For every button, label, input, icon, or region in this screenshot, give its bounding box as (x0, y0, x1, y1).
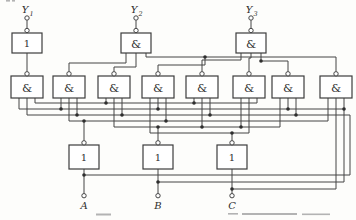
gate-nand-r2-2: & (53, 76, 85, 98)
svg-text:&: & (246, 37, 256, 51)
svg-text:&: & (22, 81, 32, 95)
gate-nand-r2-8: & (320, 76, 352, 98)
svg-text:&: & (131, 37, 141, 51)
svg-text:1: 1 (24, 38, 30, 49)
gate-nand-r2-5: & (186, 76, 218, 98)
gate-nand-r2-4: & (142, 76, 174, 98)
svg-text:&: & (331, 81, 341, 95)
cropped-text-top (6, 0, 15, 2)
label-a: A (79, 200, 87, 211)
gate-not-y1: 1 (12, 33, 42, 53)
svg-text:1: 1 (29, 10, 33, 18)
svg-text:1: 1 (155, 152, 161, 163)
label-c: C (228, 200, 236, 211)
gate-nand-y2: & (121, 33, 151, 53)
svg-text:&: & (197, 81, 207, 95)
svg-text:1: 1 (81, 152, 87, 163)
caption-cropped-text (96, 213, 330, 216)
gate-not-b: 1 (143, 145, 173, 169)
logic-circuit-diagram: 1 & & & & & & & & & & 1 (0, 0, 356, 220)
svg-text:2: 2 (137, 10, 142, 18)
gate-nand-y3: & (236, 33, 266, 53)
gate-not-c: 1 (217, 145, 247, 169)
label-b: B (153, 200, 161, 211)
circuit-figure: 1 & & & & & & & & & & 1 (0, 0, 356, 220)
gate-nand-r2-7: & (272, 76, 304, 98)
gate-nand-r2-6: & (233, 76, 265, 98)
gate-nand-r2-1: & (11, 76, 43, 98)
input-labels: A B C (79, 200, 236, 211)
output-labels: Y 1 Y 2 Y 3 (22, 4, 258, 18)
svg-text:3: 3 (253, 10, 257, 18)
svg-text:&: & (64, 81, 74, 95)
gate-nand-r2-3: & (98, 76, 130, 98)
svg-text:&: & (244, 81, 254, 95)
svg-text:&: & (283, 81, 293, 95)
gate-not-a: 1 (69, 145, 99, 169)
input-terminals (82, 194, 234, 198)
svg-text:1: 1 (229, 152, 235, 163)
svg-text:&: & (109, 81, 119, 95)
svg-text:&: & (153, 81, 163, 95)
